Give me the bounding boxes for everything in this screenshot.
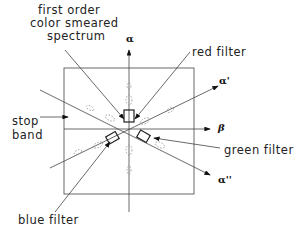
first-order-label-1: first order [38,4,100,16]
stop-band-label-1: stop [12,115,39,127]
alpha-prime-axis [50,86,218,168]
alpha-label: α [126,33,134,44]
stop-band-label-2: band [12,129,43,141]
first-order-label-2: color smeared [30,17,119,29]
alpha-double-prime-label: α'' [218,174,232,185]
green-filter-label: green filter [224,144,294,156]
blue-filter-label: blue filter [18,214,79,226]
red-filter-label: red filter [192,46,246,58]
first-order-label-3: spectrum [47,30,105,42]
beta-label: β [218,122,225,133]
alpha-prime-label: α' [219,75,230,86]
